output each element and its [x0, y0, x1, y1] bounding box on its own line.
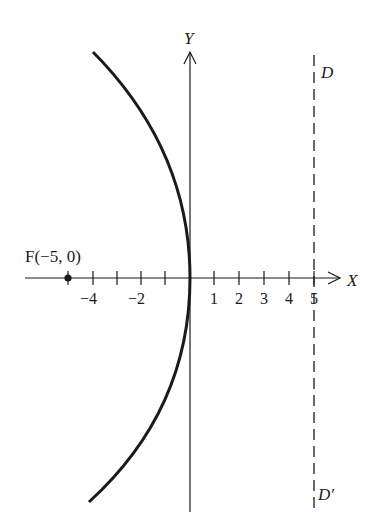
tick-label: 2	[235, 290, 243, 307]
directrix: D D′	[314, 55, 334, 512]
tick-label: −4	[80, 290, 97, 307]
tick-label: 4	[285, 290, 293, 307]
focus-point: F(−5, 0)	[25, 247, 81, 285]
focus-label: F(−5, 0)	[25, 247, 81, 266]
directrix-top-label: D	[320, 63, 334, 82]
x-axis-tick-labels: −4 −2 1 2 3 4 5	[80, 290, 318, 307]
y-axis-label: Y	[184, 29, 195, 48]
tick-label: 1	[210, 290, 218, 307]
x-axis: X	[25, 271, 358, 290]
parabola-curve	[89, 52, 190, 502]
tick-label: −2	[128, 290, 145, 307]
directrix-bottom-label: D′	[317, 485, 334, 504]
parabola-diagram: X Y −4 −2 1 2 3 4 5 D D′ F(−5	[0, 0, 375, 523]
x-axis-label: X	[346, 271, 358, 290]
tick-label: 3	[260, 290, 268, 307]
